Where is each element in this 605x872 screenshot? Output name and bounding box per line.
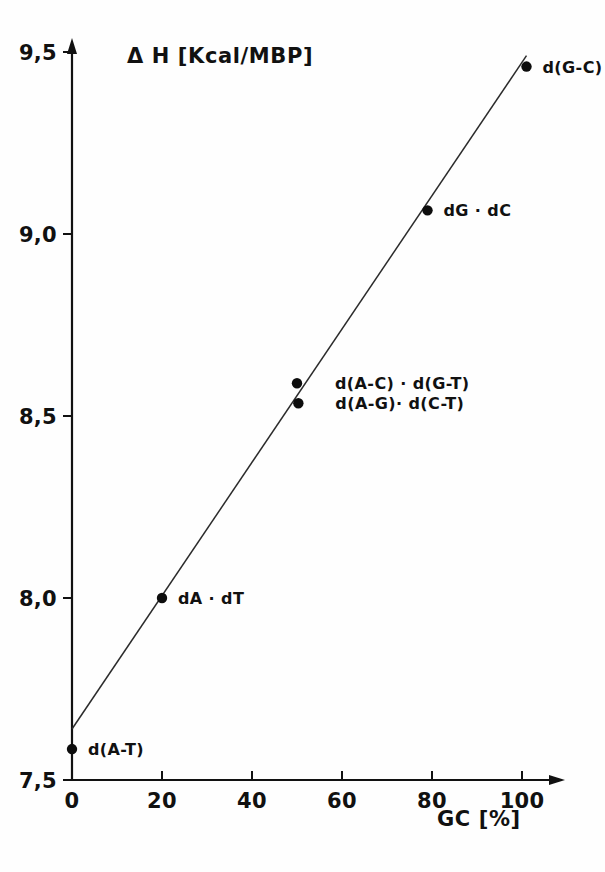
data-point-label-5: d(G-C) <box>543 58 603 77</box>
data-point-2 <box>292 378 302 388</box>
x-tick-label-3: 60 <box>327 789 357 813</box>
y-tick-label-4: 9,5 <box>19 41 57 65</box>
data-point-0 <box>67 744 77 754</box>
y-axis-title: Δ H [Kcal/MBP] <box>127 44 313 68</box>
data-point-1 <box>157 593 167 603</box>
x-tick-label-0: 0 <box>65 789 80 813</box>
data-point-label-0: d(A-T) <box>88 740 144 759</box>
y-tick-label-1: 8,0 <box>19 587 57 611</box>
x-axis-arrowhead <box>549 775 565 785</box>
data-point-label-2: d(A-C) · d(G-T) <box>335 374 469 393</box>
data-point-label-3: d(A-G)· d(C-T) <box>335 394 464 413</box>
scatter-plot: 7,58,08,59,09,5020406080100 d(A-T)dA · d… <box>0 0 605 872</box>
data-point-4 <box>422 205 432 215</box>
x-tick-label-2: 40 <box>237 789 267 813</box>
x-axis-title: GC [%] <box>437 807 521 831</box>
axes <box>67 38 565 785</box>
chart-figure: 7,58,08,59,09,5020406080100 d(A-T)dA · d… <box>0 0 605 872</box>
data-point-3 <box>293 398 303 408</box>
data-point-label-1: dA · dT <box>178 589 244 608</box>
point-labels: d(A-T)dA · dTd(A-C) · d(G-T)d(A-G)· d(C-… <box>88 58 603 760</box>
tick-marks: 7,58,08,59,09,5020406080100 <box>19 41 544 813</box>
y-tick-label-2: 8,5 <box>19 405 57 429</box>
x-tick-label-1: 20 <box>147 789 177 813</box>
data-point-5 <box>521 61 531 71</box>
data-point-label-4: dG · dC <box>444 201 512 220</box>
y-tick-label-0: 7,5 <box>19 769 57 793</box>
y-tick-label-3: 9,0 <box>19 223 57 247</box>
